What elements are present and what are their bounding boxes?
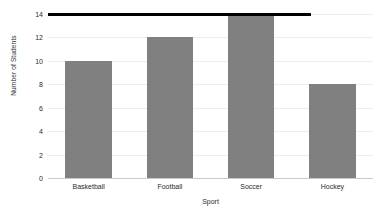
gridline-0: 0 — [48, 178, 373, 179]
y-tick-label-0: 0 — [39, 175, 43, 182]
x-tick-label-hockey: Hockey — [321, 183, 344, 190]
bar-group-soccer: Soccer — [228, 14, 275, 178]
x-axis-title: Sport — [48, 198, 373, 205]
y-tick-label-8: 8 — [39, 81, 43, 88]
bar-football — [147, 37, 194, 178]
y-tick-label-2: 2 — [39, 151, 43, 158]
y-axis-title: Number of Students — [10, 1, 17, 131]
bars-group: BasketballFootballSoccerHockey — [48, 14, 373, 178]
y-tick-label-14: 14 — [35, 11, 43, 18]
bar-soccer — [228, 14, 275, 178]
plot-area: 02468101214 BasketballFootballSoccerHock… — [48, 14, 373, 178]
bar-chart: Number of Students 02468101214 Basketbal… — [0, 0, 384, 222]
reference-line-14 — [48, 13, 311, 16]
bar-basketball — [65, 61, 112, 178]
x-tick-label-football: Football — [157, 183, 182, 190]
bar-group-hockey: Hockey — [309, 14, 356, 178]
bar-group-football: Football — [147, 14, 194, 178]
y-tick-label-4: 4 — [39, 128, 43, 135]
bar-hockey — [309, 84, 356, 178]
y-tick-label-10: 10 — [35, 57, 43, 64]
y-tick-label-6: 6 — [39, 104, 43, 111]
bar-group-basketball: Basketball — [65, 14, 112, 178]
y-tick-label-12: 12 — [35, 34, 43, 41]
x-tick-label-basketball: Basketball — [72, 183, 104, 190]
x-tick-label-soccer: Soccer — [240, 183, 262, 190]
